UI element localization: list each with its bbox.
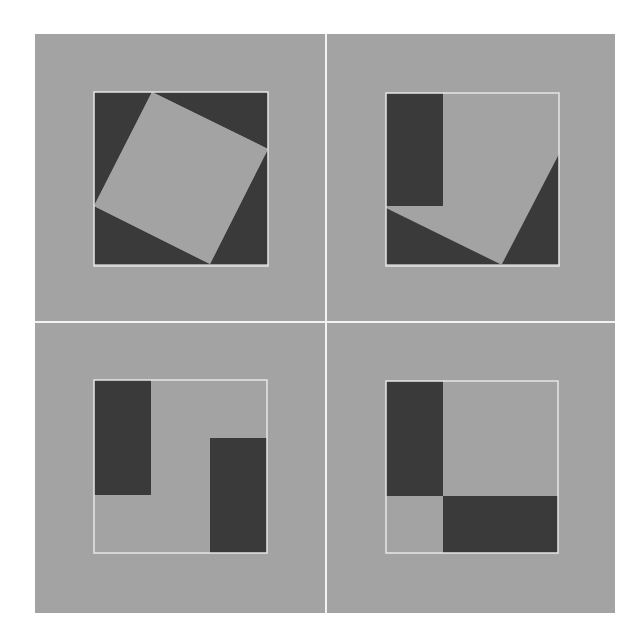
dark-piece-bottom-right-0 [386, 381, 443, 496]
pythagorean-diagram [0, 0, 644, 643]
dark-piece-bottom-left-1 [210, 438, 267, 553]
dark-piece-bottom-left-0 [94, 380, 151, 495]
dark-piece-top-right-0 [386, 93, 443, 206]
dark-piece-bottom-right-1 [443, 496, 558, 553]
